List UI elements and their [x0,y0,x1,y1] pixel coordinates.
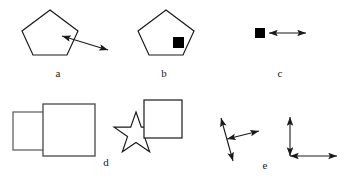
square-over-star [144,100,182,138]
figure-canvas [0,0,353,184]
panel-label-d: d [99,157,113,168]
panel-c-group [255,28,306,38]
figure-sheet: a b c d e [0,0,353,184]
panel-e-left-group [221,118,259,161]
panel-label-b: b [157,68,171,79]
panel-label-c: c [273,68,287,79]
double-arrow [62,36,108,50]
panel-d-left-group [13,104,95,156]
pentagon-outline [138,10,194,55]
branch-arrow [227,131,259,139]
panel-d-right-group [114,100,182,152]
black-square-marker [173,37,184,48]
panel-label-e: e [258,160,272,171]
panel-b-group [138,10,194,55]
black-square-marker [255,28,265,38]
panel-a-group [22,10,108,55]
panel-e-right-group [290,117,337,156]
panel-label-a: a [51,68,65,79]
large-square-left [43,104,95,156]
tilted-main-arrow [221,118,233,161]
pentagon-outline [22,10,78,55]
